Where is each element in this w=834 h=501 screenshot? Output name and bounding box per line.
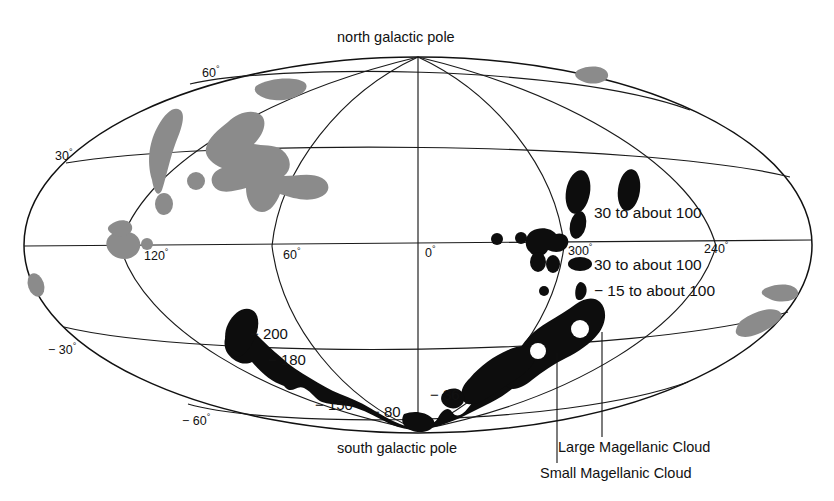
longitude-label-240-value: 240 [704,242,725,256]
latitude-label-m60-value: − 60 [182,414,207,428]
longitude-label-240: 240° [704,241,728,256]
longitude-label-0: 0° [425,245,436,260]
longitude-label-60: 60° [283,247,301,262]
degree-sign: ° [165,247,169,257]
latitude-label-30: 30° [55,148,73,163]
degree-sign: ° [207,412,211,422]
grey-cloud-right-lower-streak [736,309,782,337]
legend-label-upper: 30 to about 100 [594,205,702,221]
velocity-label-36: − 36 [430,387,460,402]
degree-sign: ° [432,244,436,254]
velocity-label-180: − 180 [268,352,306,367]
small-magellanic-cloud-label: Small Magellanic Cloud [540,466,692,481]
degree-sign: ° [73,341,77,351]
degree-sign: ° [725,240,729,250]
dark-knot-5 [539,286,549,296]
longitude-label-300: 300° [568,243,592,258]
grey-cloud-upper-left-arc [149,109,183,194]
latitude-label-m30: − 30° [48,342,76,357]
velocity-label-200: − 200 [250,326,288,341]
legend-label-middle: 30 to about 100 [594,257,702,273]
longitude-label-120: 120° [144,248,168,263]
legend-swatch-middle [568,257,592,271]
dark-knot-3 [530,252,546,272]
large-magellanic-cloud-label: Large Magellanic Cloud [558,440,710,455]
longitude-label-60-value: 60 [283,248,297,262]
dark-knot-4 [546,255,560,273]
degree-sign: ° [69,147,73,157]
longitude-label-120-value: 120 [144,249,165,263]
grey-cloud-elongated-top [255,79,307,101]
dark-knot-2 [515,232,527,244]
degree-sign: ° [589,242,593,252]
galactic-map-figure: north galactic pole south galactic pole … [0,0,834,501]
north-galactic-pole-label: north galactic pole [337,30,455,45]
grey-cloud-branching-complex [206,112,329,212]
south-galactic-pole-label: south galactic pole [337,441,457,456]
longitude-label-0-value: 0 [425,246,432,260]
dark-knot-1 [491,233,503,245]
grey-cloud-small-blob-2 [187,172,205,190]
longitude-label-300-value: 300 [568,244,589,258]
parallel-30 [66,147,790,177]
dark-cloud-blob-a [562,168,593,215]
latitude-label-m30-value: − 30 [48,343,73,357]
degree-sign: ° [297,246,301,256]
small-magellanic-cloud-marker [530,343,546,359]
grey-cloud-right-upper-streak [762,285,798,302]
latitude-label-m60: − 60° [182,413,210,428]
legend-swatch-lower [575,282,586,300]
grey-cloud-far-left [25,271,48,299]
parallel-m30 [64,312,788,349]
latitude-label-60-value: 60 [202,66,216,80]
velocity-label-80: − 80 [371,404,401,419]
graticule-meridians [120,57,716,430]
large-magellanic-cloud-marker [571,320,589,338]
latitude-label-30-value: 30 [55,149,69,163]
grey-cloud-small-blob-1 [155,193,173,215]
latitude-label-60: 60° [202,65,220,80]
dark-cloud-blob-c [567,210,588,241]
grey-cloud-near-pole [575,67,608,84]
legend-label-lower: − 15 to about 100 [594,283,715,299]
velocity-label-150: − 150 [315,397,353,412]
degree-sign: ° [216,64,220,74]
